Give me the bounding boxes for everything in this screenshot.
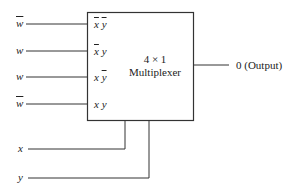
select-label-x: x — [18, 142, 23, 154]
output-label: 0 (Output) — [236, 59, 282, 71]
input-label-0: w — [16, 17, 23, 29]
select-label-y: y — [18, 171, 23, 183]
input-label-1: w — [16, 44, 23, 56]
input-label-2: w — [16, 70, 23, 82]
select-code-0: x y — [94, 18, 107, 30]
input-label-3: w — [16, 97, 23, 109]
select-wire-x — [28, 121, 125, 149]
mux-title-line2: Multiplexer — [120, 66, 190, 78]
mux-title-line1: 4 × 1 — [120, 53, 190, 65]
select-code-3: x y — [94, 98, 107, 110]
select-code-2: x y — [94, 71, 107, 83]
select-code-1: x y — [94, 45, 107, 57]
mux-diagram-wires — [0, 0, 297, 193]
